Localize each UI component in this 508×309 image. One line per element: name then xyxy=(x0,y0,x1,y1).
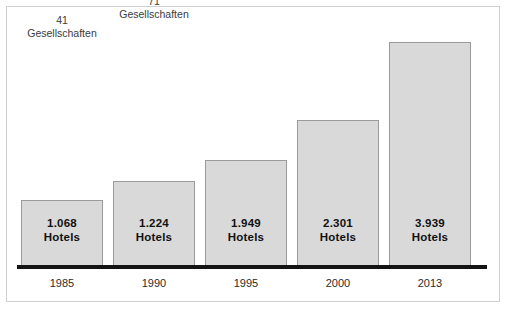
bar-1985[interactable]: 1.068 Hotels xyxy=(21,200,103,267)
bar-group-1995: 95 Gesellschaften 1.949 Hotels xyxy=(205,0,287,309)
bar-2000[interactable]: 2.301 Hotels xyxy=(297,120,379,267)
x-tick-label-1995: 1995 xyxy=(205,276,287,290)
bar-1995[interactable]: 1.949 Hotels xyxy=(205,160,287,267)
hotels-count-1995: 1.949 xyxy=(206,217,286,231)
bar-group-1990: 71 Gesellschaften 1.224 Hotels xyxy=(113,0,195,309)
hotels-unit-2000: Hotels xyxy=(298,231,378,245)
bar-group-1985: 41 Gesellschaften 1.068 Hotels xyxy=(21,0,103,309)
x-tick-label-1990: 1990 xyxy=(113,276,195,290)
hotels-count-2013: 3.939 xyxy=(390,217,470,231)
hotels-unit-1995: Hotels xyxy=(206,231,286,245)
hotels-count-1985: 1.068 xyxy=(22,217,102,231)
hotels-count-2000: 2.301 xyxy=(298,217,378,231)
x-tick-label-1985: 1985 xyxy=(21,276,103,290)
x-tick-label-2000: 2000 xyxy=(297,276,379,290)
bar-1990[interactable]: 1.224 Hotels xyxy=(113,181,195,267)
bar-2013[interactable]: 3.939 Hotels xyxy=(389,42,471,267)
x-axis-baseline xyxy=(17,265,487,269)
bar-chart-figure: 41 Gesellschaften 1.068 Hotels 71 Gesell… xyxy=(0,0,508,309)
bar-value-label-1985: 1.068 Hotels xyxy=(22,217,102,244)
hotels-unit-2013: Hotels xyxy=(390,231,470,245)
hotels-unit-1990: Hotels xyxy=(114,231,194,245)
bar-group-2000: 121 Gesellschaften 2.301 Hotels xyxy=(297,0,379,309)
plot-area: 41 Gesellschaften 1.068 Hotels 71 Gesell… xyxy=(0,0,508,309)
x-tick-label-2013: 2013 xyxy=(389,276,471,290)
bar-value-label-1995: 1.949 Hotels xyxy=(206,217,286,244)
bar-top-label-1990: 71 Gesellschaften xyxy=(99,0,209,20)
hotels-unit-1985: Hotels xyxy=(22,231,102,245)
bar-group-2013: 177 Gesellschaften 3.939 Hotels xyxy=(389,0,471,309)
companies-count-1990: 71 xyxy=(99,0,209,8)
bar-value-label-1990: 1.224 Hotels xyxy=(114,217,194,244)
bar-value-label-2013: 3.939 Hotels xyxy=(390,217,470,244)
companies-unit-1990: Gesellschaften xyxy=(99,8,209,21)
bar-value-label-2000: 2.301 Hotels xyxy=(298,217,378,244)
companies-unit-1985: Gesellschaften xyxy=(7,27,117,40)
hotels-count-1990: 1.224 xyxy=(114,217,194,231)
